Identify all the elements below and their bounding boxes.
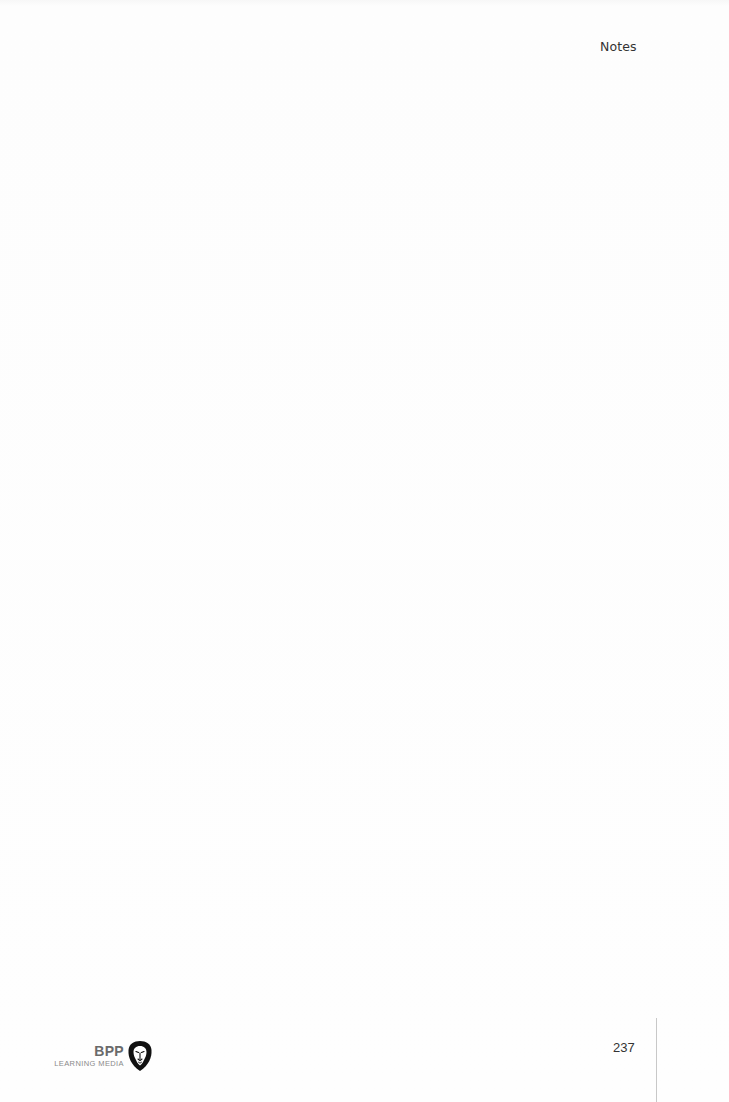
publisher-logo: BPP LEARNING MEDIA <box>56 1038 156 1076</box>
page-number: 237 <box>613 1040 635 1055</box>
notes-header: Notes <box>600 39 637 54</box>
logo-brand-text: BPP <box>94 1043 124 1059</box>
logo-subtitle-text: LEARNING MEDIA <box>54 1059 124 1068</box>
lion-shield-icon <box>127 1040 153 1072</box>
footer-divider <box>656 1018 657 1102</box>
document-page: Notes BPP LEARNING MEDIA 237 <box>0 0 729 1102</box>
